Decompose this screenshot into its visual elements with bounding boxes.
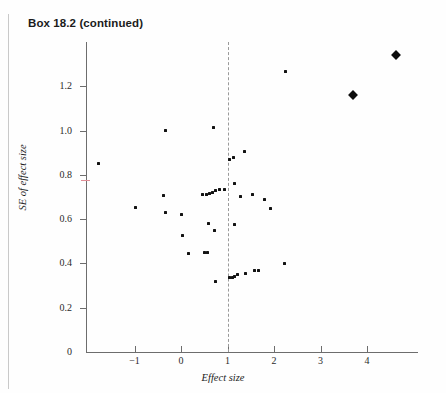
x-tick [367, 346, 368, 352]
y-tick-label: 0.8 [44, 169, 72, 180]
y-axis-title: SE of effect size [17, 108, 28, 248]
data-point [207, 222, 210, 225]
data-point [350, 92, 357, 99]
data-point [392, 52, 399, 59]
scanned-page: Box 18.2 (continued) Effect size SE of e… [0, 0, 446, 393]
x-tick-label: 3 [309, 355, 333, 366]
reference-line [228, 42, 229, 352]
data-point [212, 126, 215, 129]
x-tick-label: 4 [355, 355, 379, 366]
y-tick [80, 175, 86, 176]
data-point [134, 206, 137, 209]
data-point [214, 280, 217, 283]
data-point [239, 195, 242, 198]
data-point [244, 272, 247, 275]
y-tick-label: 0 [44, 346, 72, 357]
data-point [218, 188, 221, 191]
data-point [187, 252, 190, 255]
scan-artifact-mark [81, 180, 90, 181]
data-point [236, 273, 239, 276]
data-point [164, 129, 167, 132]
y-tick [80, 263, 86, 264]
y-tick-label: 0.6 [44, 213, 72, 224]
data-point [213, 229, 216, 232]
x-tick-label: 1 [216, 355, 240, 366]
data-point [162, 194, 165, 197]
data-point [251, 193, 254, 196]
data-point [257, 269, 260, 272]
data-point [253, 269, 256, 272]
y-tick-label: 1.0 [44, 125, 72, 136]
y-tick [80, 131, 86, 132]
data-point [283, 262, 286, 265]
data-point [206, 251, 209, 254]
data-point [214, 189, 217, 192]
data-point [181, 234, 184, 237]
x-tick-label: 0 [169, 355, 193, 366]
data-point [284, 70, 287, 73]
data-point [180, 213, 183, 216]
y-axis-line [86, 42, 87, 352]
x-tick [181, 346, 182, 352]
x-tick-label: −1 [123, 355, 147, 366]
y-tick-label: 1.2 [44, 80, 72, 91]
data-point [232, 156, 235, 159]
data-point [233, 223, 236, 226]
funnel-plot: Effect size SE of effect size 00.20.40.6… [0, 0, 446, 393]
x-tick [135, 346, 136, 352]
x-axis-line [86, 352, 418, 353]
data-point [223, 188, 226, 191]
x-tick-label: 2 [262, 355, 286, 366]
y-tick-label: 0.4 [44, 257, 72, 268]
data-point [233, 182, 236, 185]
data-point [164, 211, 167, 214]
data-point [228, 158, 231, 161]
y-tick-label: 0.2 [44, 302, 72, 313]
x-axis-title: Effect size [0, 372, 446, 383]
data-point [263, 198, 266, 201]
data-point [243, 150, 246, 153]
data-point [201, 193, 204, 196]
data-point [97, 162, 100, 165]
y-tick [80, 86, 86, 87]
x-tick [321, 346, 322, 352]
data-point [269, 207, 272, 210]
y-tick [80, 308, 86, 309]
x-tick [274, 346, 275, 352]
y-tick [80, 219, 86, 220]
